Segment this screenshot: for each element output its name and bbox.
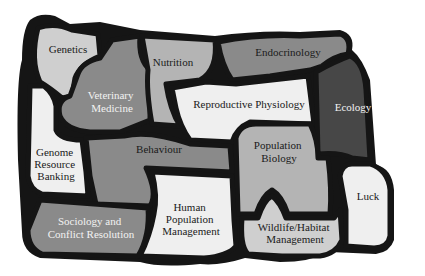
label-veterinary-medicine: Veterinary Medicine [88,89,137,114]
region-luck [340,164,390,248]
label-ecology: Ecology [335,101,372,113]
region-population-biology [236,124,331,214]
label-endocrinology: Endocrinology [255,46,321,58]
label-genome-resource-banking: Genome Resource Banking [34,146,78,182]
label-behaviour: Behaviour [136,143,182,155]
label-population-biology: Population Biology [254,139,304,164]
label-nutrition: Nutrition [153,56,194,68]
label-reproductive-physiology: Reproductive Physiology [193,98,305,110]
label-sociology-conflict-resolution: Sociology and Conflict Resolution [48,215,135,240]
puzzle-diagram: Genetics Veterinary Medicine Nutrition E… [0,0,425,276]
label-wildlife-habitat-management: Wildlife/Habitat Management [258,221,332,245]
label-luck: Luck [357,190,380,202]
label-genetics: Genetics [49,43,87,55]
